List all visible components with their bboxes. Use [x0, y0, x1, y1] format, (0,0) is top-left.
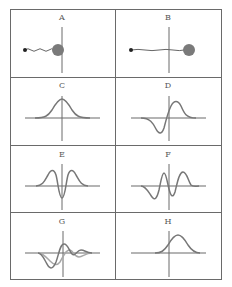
shifted-gaussian-curve: [155, 235, 200, 253]
panel-h: H: [131, 217, 206, 277]
panel-label: E: [59, 150, 65, 159]
third-derivative-curve: [141, 172, 199, 199]
panel-e: E: [25, 150, 100, 210]
panel-b: B: [129, 13, 195, 73]
small-particle-icon: [23, 48, 27, 52]
panel-label: A: [58, 13, 65, 22]
diagram-figure: A B C D E F G: [0, 0, 232, 287]
panel-label: D: [165, 81, 171, 90]
large-particle-icon: [52, 44, 64, 56]
panel-a: A: [23, 13, 65, 73]
wavy-bond: [131, 49, 184, 50]
panel-d: D: [131, 81, 206, 141]
panel-label: C: [59, 81, 65, 90]
panel-label: F: [165, 150, 171, 159]
panel-label: G: [59, 217, 65, 226]
panel-label: H: [165, 217, 172, 226]
panel-f: F: [131, 150, 206, 210]
panel-g: G: [25, 217, 100, 277]
panel-c: C: [25, 81, 100, 141]
small-particle-icon: [129, 48, 133, 52]
wavy-bond: [25, 49, 54, 52]
panel-label: B: [165, 13, 171, 22]
large-particle-icon: [183, 44, 195, 56]
